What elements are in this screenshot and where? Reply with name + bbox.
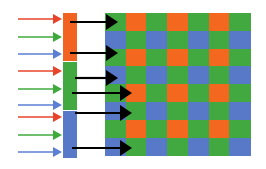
blue-light-ray-2-head xyxy=(53,100,62,110)
bayer-cell xyxy=(126,66,147,84)
red-light-ray-1-head xyxy=(53,14,62,24)
green-light-ray-2 xyxy=(18,84,62,94)
bayer-cell xyxy=(146,66,167,84)
bayer-cell xyxy=(188,13,209,31)
bayer-cell xyxy=(146,31,167,49)
bayer-cell xyxy=(146,138,167,156)
bayer-cell xyxy=(126,13,147,31)
bayer-cell xyxy=(167,31,188,49)
bayer-cell xyxy=(209,138,230,156)
green-light-ray-2-head xyxy=(53,84,62,94)
red-light-ray-3-head xyxy=(53,112,62,122)
bayer-cell xyxy=(146,13,167,31)
bayer-cell xyxy=(209,102,230,120)
blue-light-ray-3 xyxy=(18,147,62,157)
blue-light-ray-1-head xyxy=(53,49,62,59)
bayer-cell xyxy=(167,66,188,84)
bayer-cell xyxy=(188,31,209,49)
bayer-cell xyxy=(229,49,250,67)
blue-light-ray-3-head xyxy=(53,147,62,157)
bayer-cell xyxy=(229,84,250,102)
red-light-ray-2-head xyxy=(53,66,62,76)
color-filter-bar xyxy=(63,13,77,158)
green-light-ray-1-head xyxy=(53,32,62,42)
bayer-diagram-canvas xyxy=(0,0,266,169)
bayer-filter-grid xyxy=(105,13,251,156)
bayer-cell xyxy=(105,120,126,138)
diagram-svg xyxy=(0,0,266,169)
bayer-cell xyxy=(146,102,167,120)
bayer-cell xyxy=(188,66,209,84)
bayer-cell xyxy=(209,49,230,67)
bayer-cell xyxy=(167,138,188,156)
bayer-cell xyxy=(188,49,209,67)
bayer-cell xyxy=(188,138,209,156)
bayer-cell xyxy=(229,102,250,120)
red-light-ray-1 xyxy=(18,14,62,24)
green-light-ray-1 xyxy=(18,32,62,42)
bayer-cell xyxy=(209,13,230,31)
bayer-cell xyxy=(167,84,188,102)
bayer-cell xyxy=(229,120,250,138)
bayer-cell xyxy=(229,31,250,49)
bayer-cell xyxy=(188,102,209,120)
bayer-cell xyxy=(229,138,250,156)
bayer-cell xyxy=(229,66,250,84)
bayer-cell xyxy=(167,120,188,138)
bayer-cell xyxy=(146,49,167,67)
bayer-cell xyxy=(209,120,230,138)
bayer-cell xyxy=(188,120,209,138)
green-light-ray-3-head xyxy=(53,130,62,140)
blue-light-ray-1 xyxy=(18,49,62,59)
bayer-cell xyxy=(209,31,230,49)
bayer-cell xyxy=(209,84,230,102)
filter-segment-blue xyxy=(63,111,77,158)
incoming-light-arrows xyxy=(18,14,62,157)
bayer-cell xyxy=(209,66,230,84)
bayer-cell xyxy=(146,120,167,138)
bayer-cell xyxy=(105,31,126,49)
red-light-ray-3 xyxy=(18,112,62,122)
bayer-cell xyxy=(167,102,188,120)
bayer-cell xyxy=(167,13,188,31)
bayer-cell xyxy=(188,84,209,102)
filter-segment-green xyxy=(63,62,77,110)
bayer-cell xyxy=(229,13,250,31)
bayer-cell xyxy=(126,31,147,49)
bayer-cell xyxy=(126,120,147,138)
bayer-cell xyxy=(126,49,147,67)
blue-light-ray-2 xyxy=(18,100,62,110)
red-light-ray-2 xyxy=(18,66,62,76)
bayer-cell xyxy=(167,49,188,67)
filter-to-grid-gap xyxy=(77,0,105,169)
green-light-ray-3 xyxy=(18,130,62,140)
bayer-cell xyxy=(146,84,167,102)
